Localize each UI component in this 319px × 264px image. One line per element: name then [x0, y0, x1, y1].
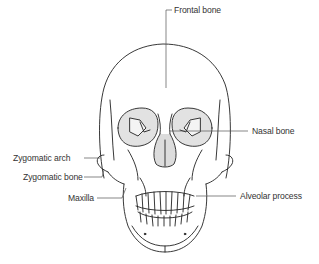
leader-zygomatic-bone [84, 170, 104, 177]
skull-diagram: Frontal bone Nasal bone Zygomatic arch Z… [0, 0, 319, 264]
leader-frontal-bone [166, 10, 172, 88]
label-nasal-bone: Nasal bone [252, 126, 294, 136]
label-frontal-bone: Frontal bone [174, 5, 221, 15]
label-maxilla: Maxilla [68, 193, 94, 203]
leader-maxilla [97, 188, 126, 198]
label-zygomatic-arch: Zygomatic arch [13, 153, 70, 163]
label-alveolar-process: Alveolar process [240, 191, 302, 201]
label-zygomatic-bone: Zygomatic bone [23, 172, 83, 182]
